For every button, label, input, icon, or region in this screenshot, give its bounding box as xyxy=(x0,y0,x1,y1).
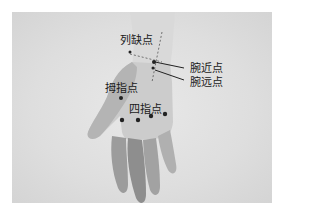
label-wan-yuan-point: 腕远点 xyxy=(190,77,223,89)
label-muzhi-point: 拇指点 xyxy=(105,83,138,95)
label-wan-jin-point: 腕近点 xyxy=(190,63,223,75)
label-lieque-point: 列缺点 xyxy=(120,35,153,47)
label-sizhi-point: 四指点 xyxy=(129,104,162,116)
